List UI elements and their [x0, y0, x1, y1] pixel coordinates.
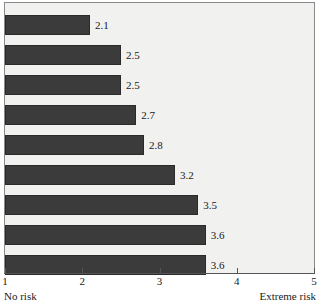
bar-value-label: 2.5	[126, 50, 140, 61]
bar-row: 2.8	[5, 135, 314, 155]
bar-row: 3.5	[5, 195, 314, 215]
bar-chart: 2.12.52.52.72.83.23.53.63.6 12345 No ris…	[0, 0, 321, 305]
axis-min-label: No risk	[4, 291, 37, 302]
bars-layer: 2.12.52.52.72.83.23.53.63.6	[5, 3, 314, 273]
bar	[5, 135, 144, 155]
bar-row: 2.7	[5, 105, 314, 125]
x-axis-tick	[82, 268, 83, 274]
x-axis-tick-label: 2	[80, 276, 86, 287]
bar	[5, 195, 198, 215]
bar	[5, 15, 90, 35]
x-axis-tick	[314, 268, 315, 274]
bar-value-label: 2.5	[126, 80, 140, 91]
bar-value-label: 3.6	[211, 260, 225, 271]
bar	[5, 225, 206, 245]
bar-value-label: 3.6	[211, 230, 225, 241]
bar	[5, 75, 121, 95]
bar	[5, 165, 175, 185]
x-axis-tick-label: 5	[311, 276, 317, 287]
bar-row: 3.2	[5, 165, 314, 185]
x-axis-tick	[160, 268, 161, 274]
x-axis-tick-label: 1	[2, 276, 8, 287]
bar-row: 2.5	[5, 45, 314, 65]
x-axis-tick	[237, 268, 238, 274]
bar-value-label: 2.8	[149, 140, 163, 151]
bar-value-label: 3.2	[180, 170, 194, 181]
bar	[5, 45, 121, 65]
bar-row: 3.6	[5, 225, 314, 245]
bar-row: 2.1	[5, 15, 314, 35]
bar-value-label: 3.5	[203, 200, 217, 211]
bar-value-label: 2.7	[141, 110, 155, 121]
bar-row: 2.5	[5, 75, 314, 95]
axis-max-label: Extreme risk	[259, 291, 316, 302]
x-axis-tick	[5, 268, 6, 274]
x-axis-tick-label: 3	[157, 276, 163, 287]
bar	[5, 105, 136, 125]
bar	[5, 255, 206, 275]
x-axis-tick-label: 4	[234, 276, 240, 287]
bar-value-label: 2.1	[95, 20, 109, 31]
